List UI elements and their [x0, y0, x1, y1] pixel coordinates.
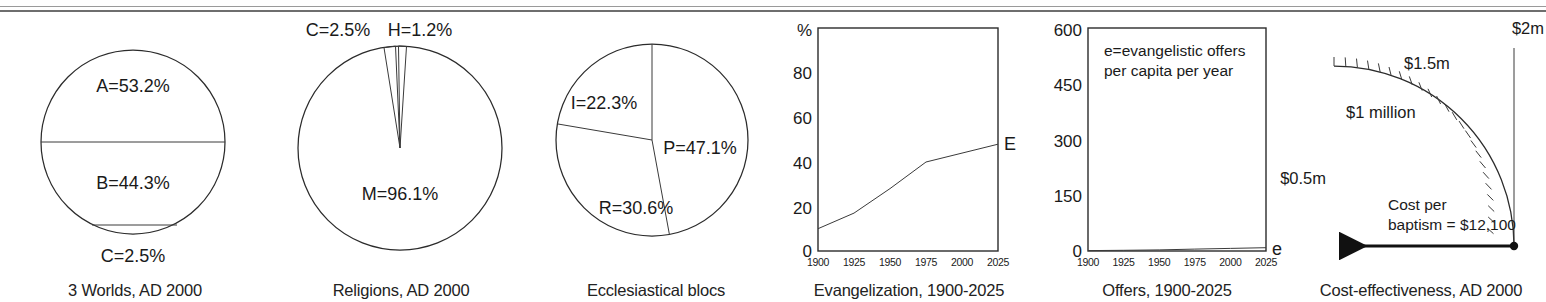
x-tick-1900: 1900 [1077, 256, 1100, 268]
y-tick-150: 150 [1054, 187, 1082, 206]
x-tick-1950: 1950 [879, 256, 902, 268]
y-axis-unit: % [797, 21, 812, 40]
y-tick-20: 20 [793, 199, 812, 218]
top-rule [0, 10, 1546, 12]
gauge-note-line1: Cost per [1388, 196, 1447, 213]
y-tick-600: 600 [1054, 21, 1082, 40]
panel-religions: C=2.5% H=1.2% M=96.1% Religions, AD 2000 [270, 14, 532, 302]
slice-label-c: C=2.5% [101, 246, 166, 266]
slice-label-a: A=53.2% [96, 76, 170, 96]
figure-root: A=53.2% B=44.3% C=2.5% 3 Worlds, AD 2000… [0, 0, 1546, 302]
cost-effectiveness-gauge: $0.5m $1 million $1.5m $2m Cost per bapt… [1296, 14, 1546, 276]
evangelization-chart: % 80 60 40 20 0 E 1900 1925 1950 1975 20… [780, 14, 1038, 276]
panel-caption-three-worlds: 3 Worlds, AD 2000 [0, 281, 270, 300]
panel-caption-evangelization: Evangelization, 1900-2025 [780, 281, 1038, 300]
boundary-r-i [557, 124, 652, 140]
panel-caption-religions: Religions, AD 2000 [270, 281, 532, 300]
x-tick-1975: 1975 [915, 256, 938, 268]
top-hairline [0, 6, 1546, 7]
ecclesiastical-blocs-chart: P=47.1% R=30.6% I=22.3% [532, 14, 780, 276]
x-tick-1975: 1975 [1184, 256, 1207, 268]
three-worlds-chart: A=53.2% B=44.3% C=2.5% [0, 14, 270, 276]
slice-h [399, 46, 407, 148]
series-line-e [1088, 248, 1266, 251]
x-tick-2025: 2025 [1255, 256, 1278, 268]
series-line-e [818, 144, 998, 229]
x-tick-1925: 1925 [843, 256, 866, 268]
series-end-label-e: E [1004, 134, 1016, 154]
offers-note-line2: per capita per year [1104, 62, 1233, 79]
slice-label-h: H=1.2% [388, 20, 453, 40]
x-tick-2000: 2000 [951, 256, 974, 268]
y-tick-450: 450 [1054, 76, 1082, 95]
panel-caption-cost-effectiveness: Cost-effectiveness, AD 2000 [1296, 281, 1546, 300]
plot-frame [818, 28, 998, 251]
slice-label-i: I=22.3% [571, 93, 638, 113]
panel-three-worlds: A=53.2% B=44.3% C=2.5% 3 Worlds, AD 2000 [0, 14, 270, 302]
panel-evangelization: % 80 60 40 20 0 E 1900 1925 1950 1975 20… [780, 14, 1038, 302]
x-tick-1950: 1950 [1148, 256, 1171, 268]
religions-chart: C=2.5% H=1.2% M=96.1% [270, 14, 532, 276]
gauge-label-1-million: $1 million [1346, 103, 1416, 121]
x-tick-1925: 1925 [1113, 256, 1136, 268]
y-tick-40: 40 [793, 154, 812, 173]
x-tick-2000: 2000 [1219, 256, 1242, 268]
gauge-label-1-5m: $1.5m [1404, 54, 1450, 72]
gauge-note-line2: baptism = $12,100 [1388, 216, 1516, 233]
slice-c [384, 46, 400, 148]
y-tick-80: 80 [793, 64, 812, 83]
slice-label-m: M=96.1% [362, 184, 439, 204]
panel-caption-ecclesiastical-blocs: Ecclesiastical blocs [532, 281, 780, 300]
slice-label-c: C=2.5% [306, 20, 371, 40]
y-tick-60: 60 [793, 109, 812, 128]
panel-caption-offers: Offers, 1900-2025 [1038, 281, 1296, 300]
panel-cost-effectiveness: $0.5m $1 million $1.5m $2m Cost per bapt… [1296, 14, 1546, 302]
gauge-label-2m: $2m [1512, 19, 1544, 37]
x-tick-1900: 1900 [807, 256, 830, 268]
x-tick-2025: 2025 [987, 256, 1010, 268]
y-tick-300: 300 [1054, 132, 1082, 151]
slice-label-r: R=30.6% [599, 198, 674, 218]
slice-label-p: P=47.1% [663, 138, 737, 158]
panel-offers: 600 450 300 150 0 e=evangelistic offers … [1038, 14, 1296, 302]
offers-chart: 600 450 300 150 0 e=evangelistic offers … [1038, 14, 1296, 276]
offers-note-line1: e=evangelistic offers [1104, 42, 1246, 59]
panel-ecclesiastical-blocs: P=47.1% R=30.6% I=22.3% Ecclesiastical b… [532, 14, 780, 302]
gauge-label-0-5m: $0.5m [1280, 169, 1326, 187]
slice-label-b: B=44.3% [96, 173, 170, 193]
